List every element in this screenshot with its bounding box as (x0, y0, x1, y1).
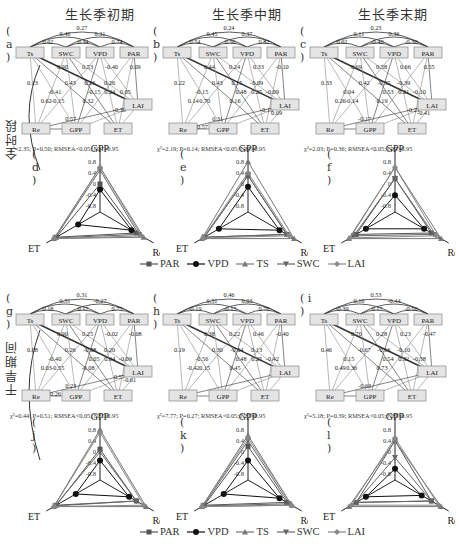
svg-text:0.31: 0.31 (212, 115, 223, 122)
node-gpp: GPP (209, 390, 237, 401)
svg-text:0.32: 0.32 (398, 355, 409, 362)
svg-text:0.03: 0.03 (41, 364, 52, 371)
svg-text:Ts: Ts (321, 317, 328, 325)
svg-text:0.70: 0.70 (199, 97, 210, 104)
legend-item-ts: TS (236, 258, 268, 269)
node-par: PAR (267, 47, 295, 58)
node-et: ET (104, 123, 132, 134)
node-gpp: GPP (62, 390, 90, 401)
svg-text:Ts: Ts (174, 317, 181, 325)
svg-text:VPD: VPD (387, 50, 401, 58)
node-vpd: VPD (233, 314, 261, 325)
legend-item-swc: SWC (277, 258, 320, 269)
svg-text:0.16: 0.16 (230, 97, 241, 104)
svg-text:0.82: 0.82 (258, 38, 269, 45)
legend-item-ts: TS (236, 526, 268, 537)
svg-text:0.31: 0.31 (76, 291, 87, 298)
svg-text:0.36: 0.36 (388, 30, 399, 37)
svg-text:0.26: 0.26 (84, 79, 95, 86)
node-gpp: GPP (62, 123, 90, 134)
svg-text:0.33: 0.33 (253, 63, 264, 70)
svg-text:-0.17: -0.17 (358, 115, 371, 122)
svg-text:SWC: SWC (205, 50, 221, 58)
svg-text:0.70: 0.70 (351, 330, 362, 337)
legend-item-lai: LAI (328, 258, 366, 269)
node-gpp: GPP (209, 123, 237, 134)
svg-text:GPP: GPP (70, 393, 83, 401)
svg-text:0.25: 0.25 (82, 330, 93, 337)
path-diagram: 0.310.51-0.270.180.170.750.900.08-0.40-0… (8, 272, 158, 412)
node-lai: LAI (418, 366, 446, 377)
svg-text:ET: ET (323, 243, 335, 254)
svg-text:0.53: 0.53 (82, 63, 93, 70)
legend-item-swc: SWC (277, 526, 320, 537)
svg-text:-0.14: -0.14 (345, 97, 359, 104)
radar-chart: GPPReET0.80.40-0.4-0.8 (168, 408, 308, 526)
svg-text:PAR: PAR (275, 317, 288, 325)
svg-text:-0.16: -0.16 (377, 346, 390, 353)
svg-text:0.76: 0.76 (258, 305, 269, 312)
svg-text:Re: Re (300, 515, 308, 526)
svg-text:0.74: 0.74 (111, 38, 123, 45)
node-vpd: VPD (380, 314, 408, 325)
svg-text:Re: Re (447, 515, 455, 526)
svg-text:0.54: 0.54 (383, 355, 395, 362)
svg-text:0.26: 0.26 (335, 97, 346, 104)
svg-text:Re: Re (179, 393, 187, 401)
svg-text:Ts: Ts (174, 50, 181, 58)
node-ts: Ts (16, 47, 44, 58)
svg-text:-0.35: -0.35 (377, 79, 390, 86)
legend-label: LAI (348, 526, 366, 537)
svg-text:0.23: 0.23 (400, 330, 411, 337)
svg-text:ET: ET (28, 511, 40, 522)
legend-label: PAR (160, 258, 179, 269)
radar-chart: GPPReET0.80.40-0.4-0.8 (315, 140, 455, 258)
svg-text:0.24: 0.24 (223, 24, 235, 31)
svg-text:0.8: 0.8 (236, 426, 244, 433)
svg-text:0.24: 0.24 (104, 88, 116, 95)
node-swc: SWC (199, 314, 227, 325)
svg-text:0.16: 0.16 (353, 297, 364, 304)
svg-text:0.90: 0.90 (57, 330, 68, 337)
node-gpp: GPP (356, 390, 384, 401)
svg-text:PAR: PAR (422, 50, 435, 58)
svg-text:0.13: 0.13 (251, 346, 262, 353)
svg-text:GPP: GPP (91, 143, 110, 154)
triangle-up-marker-icon (236, 527, 254, 537)
svg-text:0.15: 0.15 (199, 364, 210, 371)
radar-chart: GPPReET0.80.40-0.4-0.8 (168, 140, 308, 258)
node-par: PAR (414, 47, 442, 58)
svg-text:0.19: 0.19 (377, 97, 388, 104)
svg-text:Re: Re (179, 126, 187, 134)
svg-text:0.90: 0.90 (57, 63, 68, 70)
node-et: ET (398, 390, 426, 401)
svg-text:0.02: 0.02 (336, 38, 347, 45)
node-swc: SWC (346, 314, 374, 325)
svg-text:0.25: 0.25 (251, 88, 262, 95)
node-et: ET (251, 390, 279, 401)
svg-text:Re: Re (447, 247, 455, 258)
svg-text:-0.39: -0.39 (397, 79, 410, 86)
svg-text:0.57: 0.57 (65, 115, 76, 122)
svg-text:0.51: 0.51 (206, 297, 217, 304)
svg-text:0.46: 0.46 (321, 346, 332, 353)
svg-text:LAI: LAI (426, 102, 438, 110)
svg-text:Ts: Ts (27, 50, 34, 58)
node-ts: Ts (16, 314, 44, 325)
svg-text:0.44: 0.44 (204, 63, 216, 70)
svg-text:-0.02: -0.02 (105, 330, 118, 337)
svg-text:0.30: 0.30 (212, 346, 223, 353)
svg-text:0.58: 0.58 (376, 63, 387, 70)
svg-text:0.53: 0.53 (383, 88, 394, 95)
legend-label: LAI (348, 258, 366, 269)
svg-text:GPP: GPP (217, 393, 230, 401)
svg-text:ET: ET (28, 243, 40, 254)
svg-text:0.23: 0.23 (65, 382, 76, 389)
radar-chart: GPPReET0.80.40-0.4-0.8 (315, 408, 455, 526)
svg-text:0.14: 0.14 (188, 97, 200, 104)
node-re: Re (316, 390, 344, 401)
svg-text:0.11: 0.11 (354, 30, 365, 37)
svg-text:PAR: PAR (128, 50, 141, 58)
triangle-down-marker-icon (277, 527, 295, 537)
svg-text:0.37: 0.37 (241, 30, 252, 37)
